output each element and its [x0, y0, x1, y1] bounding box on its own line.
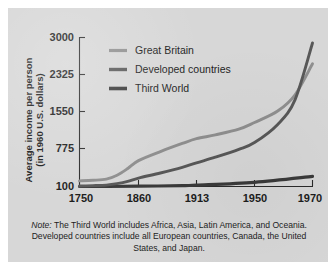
x-tick-label-1950: 1950 — [243, 192, 267, 204]
x-tick-label-1970: 1970 — [298, 192, 322, 204]
y-tick-label-3000: 3000 — [50, 31, 74, 43]
chart-note: Note: The Third World includes Africa, A… — [30, 220, 308, 254]
y-axis-tick-labels: 3000 2325 1550 775 100 — [50, 31, 74, 192]
y-axis-title: Average income per person (in 1960 U.S. … — [23, 57, 45, 182]
x-axis-tick-labels: 1750 1860 1913 1950 1970 — [69, 192, 322, 204]
note-text: The Third World includes Africa, Asia, L… — [32, 220, 307, 253]
y-axis-title-line2: (in 1960 U.S. dollars) — [34, 73, 45, 166]
y-tick-label-1550: 1550 — [50, 105, 74, 117]
y-tick-label-2325: 2325 — [50, 68, 74, 80]
y-axis — [80, 37, 86, 187]
y-tick-label-100: 100 — [56, 180, 74, 192]
legend-label-great-britain: Great Britain — [135, 44, 194, 56]
x-tick-label-1860: 1860 — [127, 192, 151, 204]
note-prefix: Note: — [31, 220, 52, 230]
legend-label-developed-countries: Developed countries — [135, 63, 231, 75]
y-tick-label-775: 775 — [56, 142, 74, 154]
x-tick-label-1913: 1913 — [185, 192, 209, 204]
legend: Great Britain Developed countries Third … — [109, 44, 231, 94]
chart-figure: Average income per person (in 1960 U.S. … — [8, 8, 328, 262]
y-axis-title-line1: Average income per person — [23, 57, 34, 182]
legend-label-third-world: Third World — [135, 82, 189, 94]
x-tick-label-1750: 1750 — [69, 192, 93, 204]
